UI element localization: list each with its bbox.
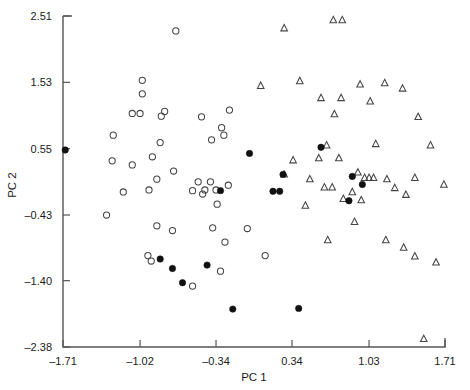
data-point-open-circle [222,239,228,245]
data-point-open-circle [120,189,126,195]
data-point-filled-circle [349,173,355,179]
data-point-open-circle [148,258,154,264]
y-tick-label: –0.43 [24,209,52,221]
y-tick-label: –2.38 [24,341,52,353]
data-point-open-circle [149,154,155,160]
data-point-open-circle [217,268,223,274]
data-point-open-triangle [383,236,390,242]
x-tick-label: –0.34 [202,355,230,367]
data-point-open-triangle [433,259,440,265]
y-tick-label: 0.55 [31,143,52,155]
data-point-open-circle [154,223,160,229]
x-axis-title: PC 1 [241,371,267,383]
data-point-open-circle [157,139,163,145]
data-point-open-triangle [331,110,338,116]
data-point-filled-circle [169,265,175,271]
data-point-open-circle [139,77,145,83]
data-point-filled-circle [204,262,210,268]
data-point-open-triangle [399,85,406,91]
data-point-filled-circle [270,188,276,194]
data-point-open-circle [207,179,213,185]
data-point-open-triangle [315,154,322,160]
data-point-filled-circle [295,305,301,311]
data-point-open-circle [198,114,204,120]
data-point-open-circle [208,137,214,143]
data-point-filled-circle [217,187,223,193]
data-point-open-circle [103,212,109,218]
x-tick-label: 0.34 [281,355,302,367]
data-point-open-triangle [329,184,336,190]
data-point-open-circle [170,168,176,174]
data-point-filled-circle [318,144,324,150]
data-point-open-triangle [355,169,362,175]
data-point-open-triangle [321,184,328,190]
x-tick-label: –1.02 [126,355,154,367]
data-point-open-circle [221,132,227,138]
data-point-open-triangle [415,113,422,119]
data-point-open-triangle [338,94,345,100]
data-point-filled-circle [230,306,236,312]
data-point-open-circle [139,91,145,97]
scatter-plot-figure: –1.71–1.02–0.340.341.031.712.511.530.55–… [0,0,470,390]
data-point-open-triangle [391,184,398,190]
data-point-open-circle [262,253,268,259]
data-point-open-circle [129,110,135,116]
y-axis-title: PC 2 [6,172,18,198]
y-tick-label: –1.40 [24,275,52,287]
data-point-open-triangle [358,196,365,202]
data-point-open-circle [129,162,135,168]
data-point-filled-circle [346,198,352,204]
data-point-open-triangle [257,82,264,88]
data-point-open-circle [137,110,143,116]
data-point-open-circle [214,201,220,207]
y-tick-label: 1.53 [31,76,52,88]
data-point-open-triangle [427,142,434,148]
data-point-open-circle [189,188,195,194]
data-point-open-circle [226,107,232,113]
data-point-open-triangle [336,154,343,160]
data-point-open-circle [244,225,250,231]
data-point-filled-circle [62,147,68,153]
tick-labels: –1.71–1.02–0.340.341.031.712.511.530.55–… [24,10,455,367]
data-point-open-circle [169,227,175,233]
data-point-open-triangle [290,156,297,162]
data-point-open-triangle [330,16,337,22]
data-point-open-circle [219,125,225,131]
data-point-open-triangle [372,140,379,146]
chart-canvas: –1.71–1.02–0.340.341.031.712.511.530.55–… [0,0,470,390]
data-point-open-triangle [351,218,358,224]
data-point-open-triangle [318,94,325,100]
data-point-open-triangle [403,191,410,197]
data-point-open-triangle [357,81,364,87]
data-point-open-circle [195,179,201,185]
data-point-open-circle [173,28,179,34]
data-point-open-triangle [441,181,448,187]
data-point-open-triangle [349,188,356,194]
data-point-open-triangle [384,175,391,181]
x-tick-label: 1.71 [434,355,455,367]
data-point-open-triangle [302,202,309,208]
data-point-open-circle [158,113,164,119]
x-tick-label: –1.71 [49,355,77,367]
data-point-filled-circle [359,181,365,187]
data-point-open-circle [225,182,231,188]
data-point-open-triangle [367,98,374,104]
y-tick-label: 2.51 [31,10,52,22]
data-point-filled-circle [179,279,185,285]
data-point-open-circle [146,187,152,193]
data-point-open-triangle [400,244,407,250]
data-point-open-triangle [339,16,346,22]
data-point-open-triangle [324,236,331,242]
x-tick-label: 1.03 [358,355,379,367]
data-point-open-triangle [420,335,427,341]
data-point-open-circle [109,158,115,164]
data-point-open-triangle [412,174,419,180]
data-point-open-triangle [307,175,314,181]
data-point-open-triangle [412,253,419,259]
data-point-open-circle [210,225,216,231]
data-markers [62,16,447,341]
data-point-filled-circle [246,150,252,156]
data-point-filled-circle [276,188,282,194]
data-point-open-triangle [296,77,303,83]
data-point-open-triangle [381,79,388,85]
